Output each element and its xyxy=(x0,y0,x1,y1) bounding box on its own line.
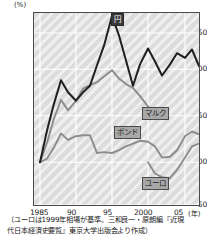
series-canvas xyxy=(34,13,200,206)
figure-caption: （ユーロは1999年相場が基準。三和良一・原朗編『近現 代日本経済史要覧』東京大… xyxy=(7,214,203,236)
series-label-euro: ユーロ xyxy=(142,177,169,190)
caption-line-1: （ユーロは1999年相場が基準。三和良一・原朗編『近現 xyxy=(7,214,203,225)
y-axis-unit-label: (%) xyxy=(14,1,26,9)
series-label-mark: マルク xyxy=(142,107,169,120)
series-line-yen xyxy=(40,16,199,162)
plot-area xyxy=(33,12,200,206)
series-label-pound: ポンド xyxy=(114,126,141,139)
series-label-yen: 円 xyxy=(111,13,124,26)
currency-index-chart: (%) 250 200 150 100 50 1985 90 95 2000 0… xyxy=(0,0,207,242)
gridlines xyxy=(34,13,200,206)
caption-line-2: 代日本経済史要覧』東京大学出版会より作成） xyxy=(7,225,203,236)
